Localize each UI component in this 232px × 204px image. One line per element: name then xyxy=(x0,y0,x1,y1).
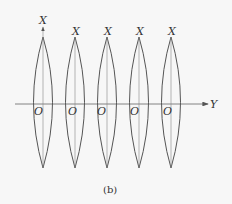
lens-3: X O xyxy=(97,25,117,168)
x-label-3: X xyxy=(103,25,113,38)
lens-2: X O xyxy=(66,25,85,168)
origin-label-5: O xyxy=(163,105,172,118)
lens-array-diagram: Y X O X O X O X O X O (b) xyxy=(0,0,232,204)
x-label-1: X xyxy=(38,14,48,27)
origin-label-3: O xyxy=(97,105,106,118)
y-axis-label: Y xyxy=(210,98,219,111)
origin-label-4: O xyxy=(130,105,139,118)
origin-label-2: O xyxy=(68,105,77,118)
x-label-5: X xyxy=(167,25,177,38)
x-label-4: X xyxy=(135,25,145,38)
origin-label-1: O xyxy=(34,105,43,118)
figure-caption: (b) xyxy=(103,184,117,195)
x-label-2: X xyxy=(71,25,81,38)
lens-4: X O xyxy=(130,25,149,168)
lens-1: X O xyxy=(34,14,53,168)
lens-5: X O xyxy=(162,25,181,168)
